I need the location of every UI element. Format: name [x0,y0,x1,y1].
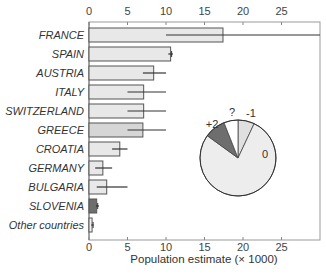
category-label: SWITZERLAND [5,105,84,117]
bottom-tick-label: 20 [237,241,249,253]
top-tick-label: 20 [237,5,249,17]
bar-row [89,161,112,175]
bar-row [89,104,166,118]
top-tick-label: 25 [275,5,287,17]
bar [89,47,171,61]
category-label: SLOVENIA [29,200,84,212]
bar [89,199,97,213]
bottom-tick-label: 5 [124,241,130,253]
category-label: AUSTRIA [35,67,84,79]
bottom-tick-label: 15 [198,241,210,253]
chart: 0510152025 0510152025 FRANCESPAINAUSTRIA… [0,0,326,274]
bar-row [89,47,173,61]
bar-row [89,199,99,213]
bar-series [89,28,320,232]
category-label: ITALY [55,86,84,98]
pie-label: 0 [262,148,268,160]
category-labels: FRANCESPAINAUSTRIAITALYSWITZERLANDGREECE… [5,29,84,231]
pie-label: -1 [246,107,256,119]
top-tick-label: 5 [124,5,130,17]
category-label: GERMANY [28,162,84,174]
category-label: CROATIA [36,143,84,155]
bottom-tick-label: 25 [275,241,287,253]
bar-row [89,123,166,137]
bar-row [89,85,166,99]
category-label: FRANCE [39,29,85,41]
bottom-tick-label: 10 [160,241,172,253]
pie-chart: -10+2? [200,106,276,196]
bar-row [89,66,166,80]
bar-row [89,180,128,194]
pie-label: ? [229,106,235,118]
top-tick-label: 15 [198,5,210,17]
x-axis-title: Population estimate (× 1000) [130,253,278,265]
category-label: GREECE [38,124,85,136]
bar-row [89,142,128,156]
pie-label: +2 [206,118,219,130]
top-tick-label: 0 [86,5,92,17]
bar-row [89,28,320,42]
bar-row [89,218,94,232]
bottom-axis-ticks: 0510152025 [86,237,288,253]
category-label: BULGARIA [28,181,84,193]
category-label: Other countries [9,219,85,231]
category-label: SPAIN [52,48,84,60]
top-tick-label: 10 [160,5,172,17]
bottom-tick-label: 0 [86,241,92,253]
